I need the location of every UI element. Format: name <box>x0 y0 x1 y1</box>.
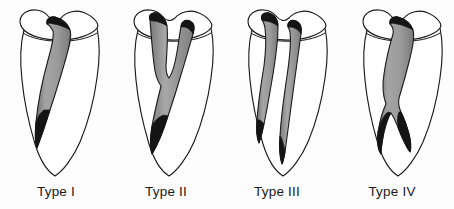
tooth-type-2 <box>134 10 213 176</box>
tooth-label-type-2: Type II <box>110 184 222 200</box>
tooth-3-occlusal-outline <box>248 10 326 40</box>
tooth-label-type-4: Type IV <box>336 184 448 200</box>
tooth-2-occlusal-outline <box>134 10 212 40</box>
tooth-label-type-1: Type I <box>0 184 112 200</box>
tooth-2-outline <box>135 28 214 176</box>
root-canal-types-figure: Type I Type II Type III Type IV <box>0 0 454 209</box>
tooth-type-4 <box>363 10 442 176</box>
tooth-label-type-3: Type III <box>221 184 333 200</box>
tooth-type-3 <box>248 10 327 176</box>
teeth-illustration <box>0 0 454 209</box>
tooth-type-1 <box>20 10 99 176</box>
